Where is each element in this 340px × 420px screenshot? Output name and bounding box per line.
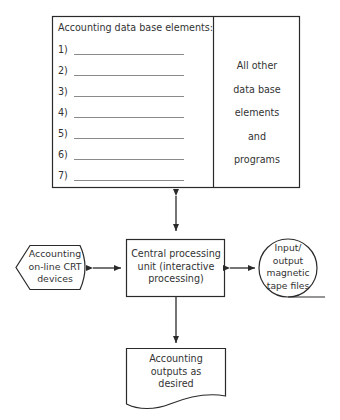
- element-number: 2): [58, 65, 68, 76]
- other-line: data base: [214, 78, 300, 102]
- cpu-line: processing): [126, 273, 226, 286]
- database-element-row: 2): [58, 65, 208, 77]
- crt-line: on-line CRT: [22, 261, 88, 274]
- cpu-label: Central processing unit (interactive pro…: [126, 248, 226, 286]
- other-line: programs: [214, 148, 300, 172]
- element-number: 7): [58, 170, 68, 181]
- element-number: 4): [58, 107, 68, 118]
- tape-line: Input/: [258, 242, 318, 255]
- crt-line: devices: [22, 273, 88, 286]
- blank-line: [74, 54, 184, 55]
- other-line: and: [214, 125, 300, 149]
- crt-line: Accounting: [22, 248, 88, 261]
- tape-line: output: [258, 255, 318, 268]
- database-title: Accounting data base elements:: [58, 22, 213, 33]
- blank-line: [74, 138, 184, 139]
- other-database-elements-label: All other data base elements and program…: [214, 54, 300, 172]
- cpu-line: unit (interactive: [126, 261, 226, 274]
- tape-line: tape files: [258, 280, 318, 293]
- blank-line: [74, 159, 184, 160]
- blank-line: [74, 180, 184, 181]
- element-number: 5): [58, 128, 68, 139]
- element-number: 3): [58, 86, 68, 97]
- output-document-label: Accounting outputs as desired: [126, 353, 226, 391]
- database-element-row: 5): [58, 128, 208, 140]
- tape-label: Input/ output magnetic tape files: [258, 242, 318, 292]
- element-number: 6): [58, 149, 68, 160]
- database-element-row: 7): [58, 170, 208, 182]
- blank-line: [74, 75, 184, 76]
- element-number: 1): [58, 44, 68, 55]
- output-line: outputs as: [126, 366, 226, 379]
- blank-line: [74, 96, 184, 97]
- tape-line: magnetic: [258, 267, 318, 280]
- database-element-row: 3): [58, 86, 208, 98]
- blank-line: [74, 117, 184, 118]
- output-line: Accounting: [126, 353, 226, 366]
- database-element-row: 6): [58, 149, 208, 161]
- cpu-line: Central processing: [126, 248, 226, 261]
- crt-label: Accounting on-line CRT devices: [22, 248, 88, 286]
- other-line: All other: [214, 54, 300, 78]
- database-element-row: 1): [58, 44, 208, 56]
- database-element-row: 4): [58, 107, 208, 119]
- output-line: desired: [126, 378, 226, 391]
- other-line: elements: [214, 101, 300, 125]
